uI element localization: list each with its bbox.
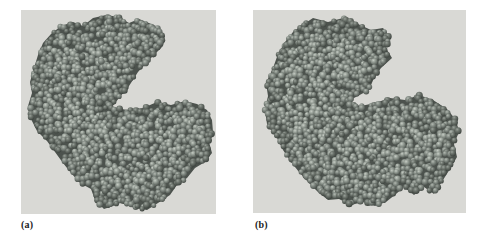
panel-b xyxy=(253,10,466,213)
panel-label-a: (a) xyxy=(21,219,33,230)
molecule-model-a-open-conformation xyxy=(21,10,216,214)
panel-label-b: (b) xyxy=(255,219,268,230)
molecule-model-b-closed-conformation xyxy=(253,10,466,213)
panel-a xyxy=(21,10,216,214)
figure-page: { "figure": { "type": "molecular-structu… xyxy=(0,0,487,242)
